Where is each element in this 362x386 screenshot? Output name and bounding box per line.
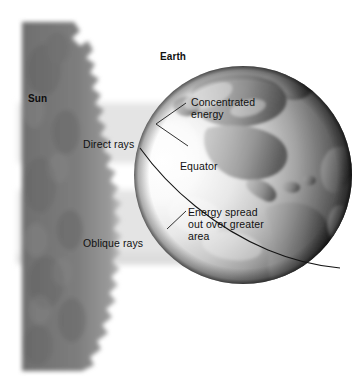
sun-label: Sun [28, 93, 47, 106]
energy-spread-label-line3: area [188, 230, 209, 243]
concentrated-energy-label-line1: Concentrated [191, 96, 255, 109]
solar-energy-diagram: Sun Earth Direct rays Oblique rays Conce… [0, 0, 362, 386]
energy-spread-label-line2: out over greater [188, 218, 264, 231]
concentrated-energy-label-line2: energy [191, 108, 224, 121]
equator-label: Equator [180, 160, 217, 173]
earth-label: Earth [160, 51, 186, 64]
energy-spread-label-line1: Energy spread [188, 206, 258, 219]
sun-body [22, 22, 122, 371]
direct-rays-label: Direct rays [83, 138, 134, 151]
oblique-rays-label: Oblique rays [83, 237, 143, 250]
